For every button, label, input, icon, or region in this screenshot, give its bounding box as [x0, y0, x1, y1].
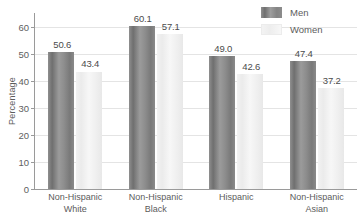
- y-tick-label-40: 40: [18, 75, 29, 86]
- y-tick-label-30: 30: [18, 102, 29, 113]
- bar-women-0[interactable]: [76, 72, 102, 190]
- y-tick-mark-20: [31, 135, 35, 136]
- bar-men-1[interactable]: [129, 26, 155, 189]
- x-axis-category-label-1: Non-HispanicBlack: [116, 192, 197, 215]
- category-label-line1: Non-Hispanic: [277, 192, 357, 204]
- bar-women-1[interactable]: [157, 34, 183, 189]
- y-tick-mark-30: [31, 108, 35, 109]
- bar-value-label-women-0: 43.4: [74, 58, 106, 69]
- y-tick-mark-50: [31, 54, 35, 55]
- bar-value-label-men-3: 47.4: [288, 48, 320, 59]
- bar-value-label-women-2: 42.6: [235, 61, 267, 72]
- bar-chart: Percentage 0102030405060 50.643.460.157.…: [0, 0, 357, 218]
- legend-swatch-women-icon: [261, 24, 282, 35]
- bar-men-0[interactable]: [48, 52, 74, 189]
- legend-item-men[interactable]: Men: [261, 5, 323, 20]
- legend-item-women[interactable]: Women: [261, 22, 323, 37]
- plot-area: 0102030405060 50.643.460.157.149.042.647…: [35, 13, 357, 189]
- category-label-line2: White: [35, 204, 116, 216]
- x-axis-category-label-2: Hispanic: [196, 192, 277, 204]
- bar-value-label-men-0: 50.6: [46, 39, 78, 50]
- bar-women-3[interactable]: [318, 88, 344, 189]
- y-tick-label-10: 10: [18, 156, 29, 167]
- x-axis-category-label-3: Non-HispanicAsian: [277, 192, 357, 215]
- y-tick-label-50: 50: [18, 48, 29, 59]
- y-axis-title: Percentage: [7, 61, 17, 141]
- category-label-line2: Asian: [277, 204, 357, 216]
- legend-swatch-men-icon: [261, 7, 282, 18]
- legend-label-women: Women: [290, 24, 323, 35]
- legend-label-men: Men: [290, 7, 308, 18]
- legend: Men Women: [261, 5, 323, 39]
- y-tick-label-60: 60: [18, 21, 29, 32]
- y-tick-mark-60: [31, 27, 35, 28]
- category-label-line1: Hispanic: [196, 192, 277, 204]
- category-label-line2: Black: [116, 204, 197, 216]
- bar-men-2[interactable]: [209, 56, 235, 189]
- x-axis-category-label-0: Non-HispanicWhite: [35, 192, 116, 215]
- y-tick-label-0: 0: [24, 184, 29, 195]
- bar-value-label-women-3: 37.2: [316, 75, 348, 86]
- y-tick-mark-40: [31, 81, 35, 82]
- bar-value-label-men-2: 49.0: [207, 43, 239, 54]
- gridline-0: [35, 189, 357, 190]
- bar-men-3[interactable]: [290, 61, 316, 189]
- category-label-line1: Non-Hispanic: [35, 192, 116, 204]
- bar-value-label-women-1: 57.1: [155, 21, 187, 32]
- y-tick-mark-10: [31, 162, 35, 163]
- bar-women-2[interactable]: [237, 74, 263, 189]
- category-label-line1: Non-Hispanic: [116, 192, 197, 204]
- y-tick-label-20: 20: [18, 129, 29, 140]
- y-tick-mark-0: [31, 189, 35, 190]
